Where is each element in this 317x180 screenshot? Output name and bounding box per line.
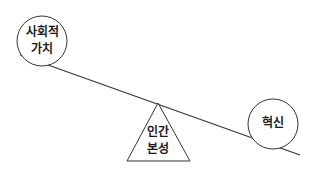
right-weight-text: 혁신 [248,115,298,132]
fulcrum-label: 인간 본성 [133,124,183,158]
fulcrum-line1: 인간 [133,124,183,141]
left-weight-line1: 사회적 [17,24,67,41]
left-weight-line2: 가치 [17,41,67,58]
left-weight-label: 사회적 가치 [17,24,67,58]
fulcrum-line2: 본성 [133,141,183,158]
right-weight-label: 혁신 [248,115,298,132]
